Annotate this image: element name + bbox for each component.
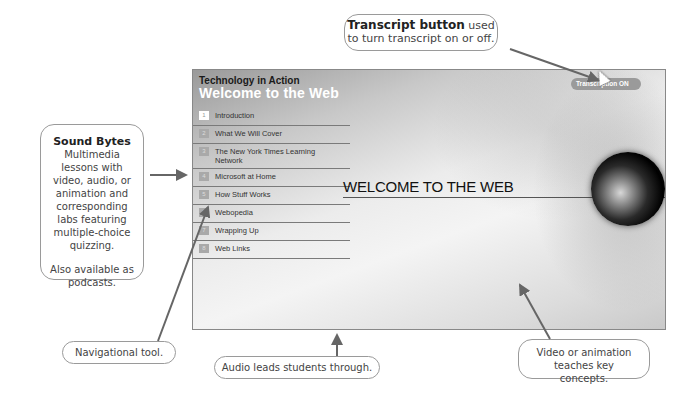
callout-transcript-bold: Transcript button [347,18,465,32]
callout-video-text: Video or animation teaches key concepts. [537,347,632,384]
menu-label: Microsoft at Home [215,172,276,181]
callout-video: Video or animation teaches key concepts. [518,339,650,379]
menu-number: 5 [199,190,209,199]
menu-label: How Stuff Works [215,190,271,199]
menu-item-introduction[interactable]: 1 Introduction [193,108,350,126]
sound-bytes-title: Sound Bytes [45,135,139,148]
callout-audio: Audio leads students through. [214,356,380,379]
lesson-title: Welcome to the Web [199,85,339,101]
menu-number: 1 [199,111,209,120]
callout-sound-bytes: Sound Bytes Multimedia lessons with vide… [40,124,144,280]
menu-number: 7 [199,226,209,235]
menu-label: What We Will Cover [215,129,282,138]
menu-number: 2 [199,129,209,138]
menu-item-webopedia[interactable]: 6 Webopedia [193,205,350,223]
navigation-menu: 1 Introduction 2 What We Will Cover 3 Th… [193,108,350,259]
menu-label: Wrapping Up [215,226,259,235]
callout-audio-text: Audio leads students through. [222,362,372,373]
menu-item-microsoft-at-home[interactable]: 4 Microsoft at Home [193,169,350,187]
brand-header: Technology in Action Welcome to the Web [199,75,339,101]
menu-number: 4 [199,172,209,181]
menu-item-nyt-learning-network[interactable]: 3 The New York Times Learning Network [193,144,350,169]
globe-image [591,152,665,226]
menu-item-how-stuff-works[interactable]: 5 How Stuff Works [193,187,350,205]
menu-label: Web Links [215,244,250,253]
menu-number: 3 [199,147,209,156]
sound-bytes-body: Multimedia lessons with video, audio, or… [45,148,139,252]
menu-item-what-we-will-cover[interactable]: 2 What We Will Cover [193,126,350,144]
menu-number: 6 [199,208,209,217]
menu-label: Webopedia [215,208,253,217]
menu-number: 8 [199,244,209,253]
menu-item-wrapping-up[interactable]: 7 Wrapping Up [193,223,350,241]
menu-item-web-links[interactable]: 8 Web Links [193,241,350,259]
sound-bytes-extra: Also available as podcasts. [45,263,139,289]
menu-label: The New York Times Learning Network [215,147,335,165]
menu-label: Introduction [215,111,254,120]
callout-navigational: Navigational tool. [62,341,176,364]
lesson-screen: Technology in Action Welcome to the Web … [192,69,666,330]
main-heading: WELCOME TO THE WEB [343,178,514,195]
callout-transcript: Transcript button used to turn transcrip… [344,14,498,51]
callout-navigational-text: Navigational tool. [75,347,163,358]
